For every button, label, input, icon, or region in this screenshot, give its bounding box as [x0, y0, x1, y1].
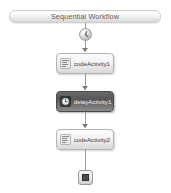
arrowhead-to-activity-2 [82, 86, 88, 90]
activity-label: codeActivity2 [74, 136, 114, 144]
connector-activity-3-to-end [85, 150, 86, 170]
delay-activity-icon [60, 96, 71, 107]
workflow-title-bar[interactable]: Sequential Workflow [9, 10, 161, 23]
code-activity-icon [60, 58, 71, 69]
stop-square-inner [82, 174, 89, 181]
activity-delay-activity-1[interactable]: delayActivity1 [56, 91, 114, 112]
page-title: Sequential Workflow [10, 11, 160, 22]
sequential-workflow-designer[interactable]: Sequential Workflow codeActivity1 [0, 0, 171, 193]
activity-label: delayActivity1 [74, 98, 114, 106]
activity-label: codeActivity1 [74, 60, 114, 68]
code-activity-icon [60, 134, 71, 145]
activity-code-activity-1[interactable]: codeActivity1 [56, 53, 114, 74]
stop-square-icon[interactable] [78, 170, 93, 185]
start-clock-icon[interactable] [79, 28, 92, 41]
arrowhead-to-activity-3 [82, 124, 88, 128]
arrowhead-to-activity-1 [82, 48, 88, 52]
activity-code-activity-2[interactable]: codeActivity2 [56, 129, 114, 150]
